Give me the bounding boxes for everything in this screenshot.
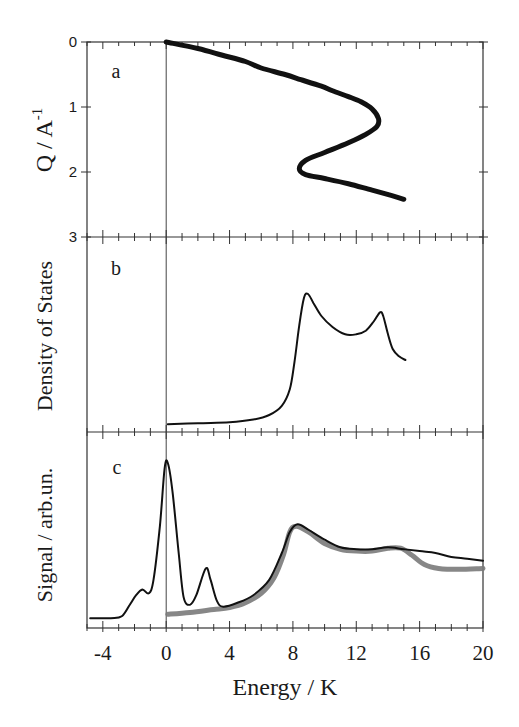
y-axis-title-a-text: Q / A-1 bbox=[29, 108, 57, 173]
x-tick-label: 4 bbox=[224, 641, 235, 665]
y-axis-title-b-text: Density of States bbox=[32, 261, 57, 411]
x-tick-label: 0 bbox=[161, 641, 172, 665]
y-tick-label: 3 bbox=[69, 228, 77, 245]
x-axis-title: Energy / K bbox=[233, 674, 339, 700]
y-axis-title-a-main: Q / A bbox=[31, 120, 57, 173]
y-axis-title-b: Density of States bbox=[32, 261, 57, 411]
y-axis-title-c-text: Signal / arb.un. bbox=[32, 468, 57, 602]
panel-label-b: b bbox=[111, 257, 121, 279]
y-axis-title-c: Signal / arb.un. bbox=[32, 468, 57, 602]
y-axis-title-a-sup: -1 bbox=[29, 108, 45, 121]
x-tick-label: 8 bbox=[288, 641, 299, 665]
y-axis-title-a: Q / A-1 bbox=[29, 108, 57, 173]
y-tick-label: 1 bbox=[69, 98, 77, 115]
y-tick-label: 2 bbox=[69, 163, 77, 180]
x-tick-label: 12 bbox=[346, 641, 367, 665]
x-tick-label: 16 bbox=[409, 641, 430, 665]
figure: 0123-4048121620Energy / KabcQ / A-1Densi… bbox=[0, 0, 519, 727]
y-tick-label: 0 bbox=[69, 33, 77, 50]
panel-label-a: a bbox=[112, 60, 121, 82]
dispersion-curve bbox=[166, 42, 404, 199]
x-tick-label: -4 bbox=[94, 641, 112, 665]
x-tick-label: 20 bbox=[473, 641, 494, 665]
dos-curve bbox=[168, 293, 406, 424]
measured-signal-curve bbox=[90, 460, 483, 618]
panel-label-c: c bbox=[113, 456, 122, 478]
